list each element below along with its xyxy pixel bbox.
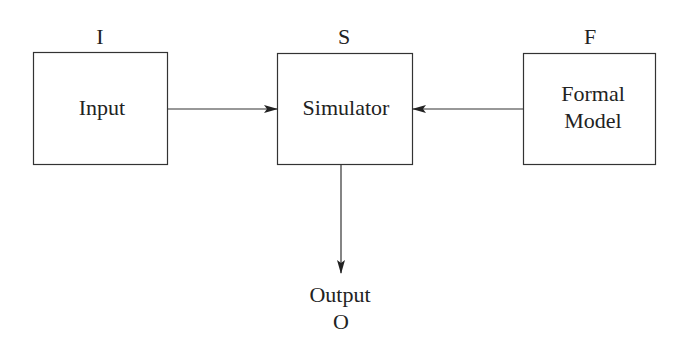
- output-letter: O: [333, 309, 349, 334]
- output-label: Output: [309, 282, 370, 307]
- input-node: I Input: [34, 24, 168, 165]
- block-diagram: I Input S Simulator F Formal Model Outpu…: [0, 0, 679, 354]
- simulator-label: Simulator: [303, 95, 390, 120]
- simulator-letter: S: [338, 24, 350, 49]
- output-node: Output O: [309, 282, 370, 334]
- formal-model-node: F Formal Model: [524, 24, 656, 165]
- formal-model-label-line1: Formal: [561, 81, 625, 106]
- diagram-canvas: I Input S Simulator F Formal Model Outpu…: [0, 0, 679, 354]
- formal-model-letter: F: [584, 24, 596, 49]
- simulator-node: S Simulator: [278, 24, 413, 165]
- input-label: Input: [79, 95, 125, 120]
- input-letter: I: [96, 24, 103, 49]
- formal-model-label-line2: Model: [564, 108, 621, 133]
